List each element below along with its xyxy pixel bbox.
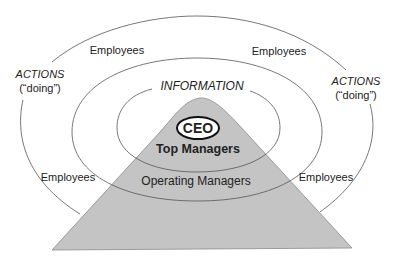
outer-ring-right-arc (320, 104, 373, 212)
doing-left-label: (“doing”) (19, 82, 61, 94)
operating-managers-label: Operating Managers (141, 174, 250, 188)
information-label: INFORMATION (160, 79, 243, 93)
employees-bottom-left: Employees (41, 171, 96, 183)
ceo-label: CEO (183, 120, 213, 136)
actions-left-label: ACTIONS (15, 68, 66, 80)
doing-right-label: (“doing”) (335, 89, 377, 101)
employees-bottom-right: Employees (299, 171, 354, 183)
employees-top-left: Employees (90, 44, 145, 56)
actions-right-label: ACTIONS (331, 75, 382, 87)
org-diagram: CEO Top Managers INFORMATION Operating M… (0, 0, 394, 265)
top-managers-label: Top Managers (156, 142, 240, 156)
outer-ring-left-arc (21, 100, 80, 214)
outer-ring-top-arc (52, 16, 346, 70)
employees-top-right: Employees (252, 45, 307, 57)
